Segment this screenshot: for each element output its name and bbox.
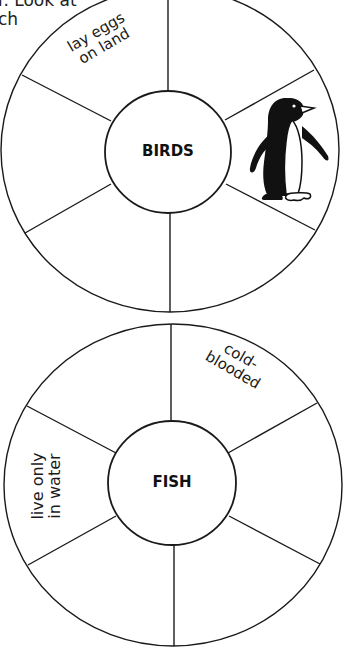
fish-section-live-in-water: live only in water bbox=[29, 440, 63, 532]
birds-spoke-lower-left bbox=[25, 184, 111, 233]
fish-hub-label: FISH bbox=[122, 473, 222, 491]
fish-spoke-upper-right bbox=[228, 403, 317, 453]
birds-hub-label: BIRDS bbox=[118, 142, 218, 160]
birds-spoke-upper-left bbox=[22, 75, 111, 121]
fish-spoke-lower-right bbox=[229, 516, 320, 564]
penguin-icon bbox=[246, 92, 336, 202]
